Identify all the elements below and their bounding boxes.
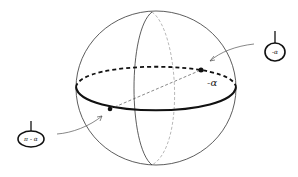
equator-front [76,87,236,110]
left-pin-icon: π - α [18,121,44,147]
equator-label: -α [207,77,217,88]
sphere-diagram: -α -α π - α [0,0,298,177]
left-pin-label: π - α [23,135,38,142]
right-pin-label: -α [272,48,278,55]
sphere-outline [76,11,236,165]
diameter-line [110,70,201,109]
back-point [199,68,204,73]
meridian-back [152,12,175,165]
right-pin-icon: -α [265,31,285,61]
right-arrow [210,44,254,61]
left-arrow [57,116,102,134]
meridian-front [134,12,152,165]
front-point [108,107,113,112]
